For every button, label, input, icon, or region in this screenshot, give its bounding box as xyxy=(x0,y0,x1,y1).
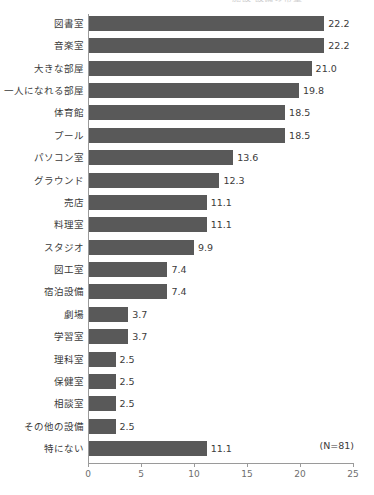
bar-row: 音楽室22.2 xyxy=(0,38,374,53)
category-label: その他の設備 xyxy=(0,419,84,434)
category-label: 宿泊設備 xyxy=(0,284,84,299)
category-label: 特にない xyxy=(0,441,84,456)
bar-row: 一人になれる部屋19.8 xyxy=(0,83,374,98)
category-label: 一人になれる部屋 xyxy=(0,83,84,98)
bar xyxy=(89,83,299,98)
bar-row: 特にない11.1 xyxy=(0,441,374,456)
category-label: 劇場 xyxy=(0,307,84,322)
bar-row: 学習室3.7 xyxy=(0,329,374,344)
bar-value-label: 9.9 xyxy=(198,240,213,255)
category-label: 料理室 xyxy=(0,217,84,232)
bar-row: スタジオ9.9 xyxy=(0,240,374,255)
bar-value-label: 13.6 xyxy=(237,150,258,165)
bar xyxy=(89,195,207,210)
bar-row: 図書室22.2 xyxy=(0,16,374,31)
bar xyxy=(89,374,116,389)
bar-value-label: 2.5 xyxy=(120,374,135,389)
bar-value-label: 11.1 xyxy=(211,217,232,232)
bar xyxy=(89,419,116,434)
bar xyxy=(89,262,167,277)
bar xyxy=(89,105,285,120)
bar xyxy=(89,128,285,143)
horizontal-bar-chart: 施設・設備の希望 0510152025 図書室22.2音楽室22.2大きな部屋2… xyxy=(0,0,374,495)
bar xyxy=(89,61,312,76)
category-label: グラウンド xyxy=(0,173,84,188)
bar-rows: 図書室22.2音楽室22.2大きな部屋21.0一人になれる部屋19.8体育館18… xyxy=(0,0,374,495)
bar-row: 理科室2.5 xyxy=(0,352,374,367)
category-label: スタジオ xyxy=(0,240,84,255)
bar-row: 大きな部屋21.0 xyxy=(0,61,374,76)
bar-value-label: 3.7 xyxy=(132,329,147,344)
bar xyxy=(89,217,207,232)
bar-row: 売店11.1 xyxy=(0,195,374,210)
bar xyxy=(89,307,128,322)
bar-row: 体育館18.5 xyxy=(0,105,374,120)
bar xyxy=(89,38,324,53)
bar xyxy=(89,352,116,367)
category-label: 体育館 xyxy=(0,105,84,120)
category-label: プール xyxy=(0,128,84,143)
category-label: 学習室 xyxy=(0,329,84,344)
bar xyxy=(89,396,116,411)
category-label: パソコン室 xyxy=(0,150,84,165)
bar-value-label: 2.5 xyxy=(120,396,135,411)
bar-value-label: 18.5 xyxy=(289,128,310,143)
bar xyxy=(89,240,194,255)
sample-size-note: (N=81) xyxy=(319,440,354,451)
bar-row: パソコン室13.6 xyxy=(0,150,374,165)
bar-value-label: 21.0 xyxy=(316,61,337,76)
bar-value-label: 11.1 xyxy=(211,195,232,210)
bar-row: 劇場3.7 xyxy=(0,307,374,322)
bar-value-label: 3.7 xyxy=(132,307,147,322)
category-label: 相談室 xyxy=(0,396,84,411)
bar-value-label: 2.5 xyxy=(120,352,135,367)
bar-value-label: 12.3 xyxy=(223,173,244,188)
bar-row: 相談室2.5 xyxy=(0,396,374,411)
bar-row: グラウンド12.3 xyxy=(0,173,374,188)
category-label: 売店 xyxy=(0,195,84,210)
category-label: 図書室 xyxy=(0,16,84,31)
bar-value-label: 18.5 xyxy=(289,105,310,120)
bar xyxy=(89,173,219,188)
bar-value-label: 22.2 xyxy=(328,16,349,31)
bar-value-label: 19.8 xyxy=(303,83,324,98)
bar-row: 保健室2.5 xyxy=(0,374,374,389)
bar-value-label: 22.2 xyxy=(328,38,349,53)
category-label: 図工室 xyxy=(0,262,84,277)
bar-row: 料理室11.1 xyxy=(0,217,374,232)
bar-value-label: 11.1 xyxy=(211,441,232,456)
category-label: 大きな部屋 xyxy=(0,61,84,76)
category-label: 理科室 xyxy=(0,352,84,367)
bar xyxy=(89,150,233,165)
bar xyxy=(89,441,207,456)
bar xyxy=(89,284,167,299)
bar-row: 宿泊設備7.4 xyxy=(0,284,374,299)
bar xyxy=(89,329,128,344)
category-label: 音楽室 xyxy=(0,38,84,53)
bar-row: 図工室7.4 xyxy=(0,262,374,277)
bar xyxy=(89,16,324,31)
bar-row: その他の設備2.5 xyxy=(0,419,374,434)
bar-value-label: 7.4 xyxy=(171,284,186,299)
category-label: 保健室 xyxy=(0,374,84,389)
bar-value-label: 2.5 xyxy=(120,419,135,434)
bar-row: プール18.5 xyxy=(0,128,374,143)
bar-value-label: 7.4 xyxy=(171,262,186,277)
